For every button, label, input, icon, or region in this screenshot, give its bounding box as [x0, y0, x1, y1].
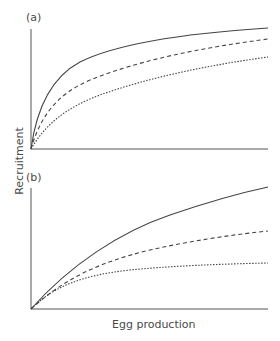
panel-b-solid-curve — [31, 187, 268, 309]
y-axis-title: Recruitment — [13, 127, 26, 195]
panel-a-label: (a) — [26, 11, 41, 24]
panel-a-curves — [31, 28, 268, 149]
panel-b-dotted-curve — [31, 263, 268, 309]
panel-a-dashed-curve — [31, 39, 268, 149]
figure-canvas — [0, 0, 280, 341]
panel-b-axes — [31, 188, 268, 309]
panel-b-dashed-curve — [31, 231, 268, 309]
panel-b-label: (b) — [26, 171, 42, 184]
panel-b-curves — [31, 187, 268, 309]
panel-a-axes — [31, 29, 268, 149]
x-axis-title: Egg production — [112, 318, 195, 331]
panel-a-solid-curve — [31, 28, 268, 149]
